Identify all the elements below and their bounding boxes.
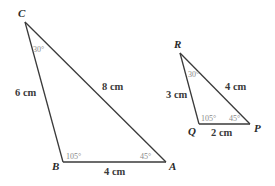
triangle-abc: C B A 6 cm 8 cm 4 cm 30° 105° 45° [15,7,176,177]
side-label-qp: 2 cm [211,127,233,138]
vertex-label-p: P [254,122,261,134]
vertex-label-r: R [173,38,181,50]
vertex-label-c: C [18,7,26,19]
angle-label-b: 105° [66,152,81,161]
side-label-ba: 4 cm [104,166,126,177]
angle-label-r: 30° [188,70,199,79]
triangle-pqr: R Q P 3 cm 4 cm 2 cm 30° 105° 45° [166,38,261,138]
side-ca [25,22,166,162]
angle-label-q: 105° [201,114,216,123]
vertex-label-q: Q [188,125,196,137]
side-label-cb: 6 cm [15,87,37,98]
side-label-rp: 4 cm [225,81,247,92]
vertex-label-b: B [51,160,59,172]
side-label-ca: 8 cm [102,81,124,92]
similar-triangles-diagram: C B A 6 cm 8 cm 4 cm 30° 105° 45° R Q P … [0,0,275,186]
side-label-rq: 3 cm [166,89,188,100]
angle-label-p: 45° [229,114,240,123]
angle-label-c: 30° [33,45,44,54]
angle-label-a: 45° [140,152,151,161]
vertex-label-a: A [168,160,176,172]
